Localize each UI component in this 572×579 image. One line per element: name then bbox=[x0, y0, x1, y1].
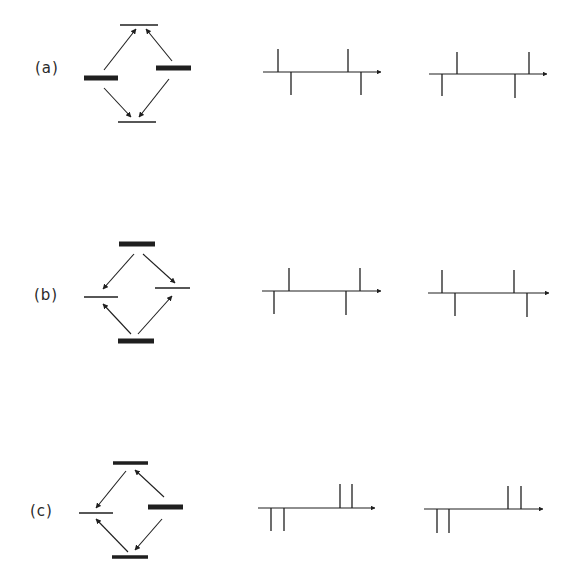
spectrum-2 bbox=[429, 52, 547, 98]
row-b bbox=[84, 244, 549, 341]
transition-arrow bbox=[143, 254, 175, 283]
row-c bbox=[79, 463, 543, 557]
transition-arrow bbox=[138, 296, 172, 334]
energy-level-figure: (a) (b) (c) bbox=[0, 0, 572, 579]
spectrum-1 bbox=[258, 484, 375, 531]
diagram-canvas bbox=[0, 0, 572, 579]
spectrum-1 bbox=[263, 49, 381, 95]
transition-arrow bbox=[104, 29, 136, 70]
transition-arrow bbox=[96, 471, 126, 508]
transition-arrow bbox=[139, 79, 169, 117]
spectrum-1 bbox=[262, 268, 381, 315]
transition-arrow bbox=[146, 29, 172, 61]
transition-arrow bbox=[103, 304, 131, 334]
spectrum-2 bbox=[424, 486, 543, 533]
spectrum-2 bbox=[428, 270, 549, 317]
transition-arrow bbox=[103, 254, 134, 289]
level-diagram bbox=[84, 244, 190, 341]
transition-arrow bbox=[135, 519, 162, 550]
transition-arrow bbox=[96, 519, 128, 552]
row-a bbox=[84, 25, 547, 122]
transition-arrow bbox=[104, 88, 131, 117]
transition-arrow bbox=[135, 470, 164, 497]
level-diagram bbox=[79, 463, 183, 557]
level-diagram bbox=[84, 25, 191, 122]
